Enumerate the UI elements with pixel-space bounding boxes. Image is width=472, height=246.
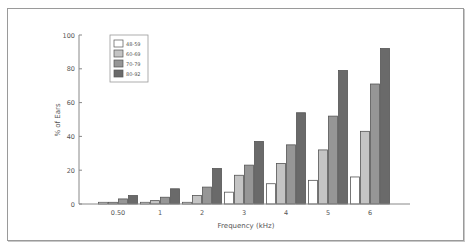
bar <box>245 165 254 204</box>
y-tick-label: 80 <box>67 65 75 73</box>
bar <box>213 169 222 204</box>
legend: 48-5960-6970-7980-92 <box>110 35 148 82</box>
x-tick-label: 2 <box>200 209 204 217</box>
legend-label: 80-92 <box>126 71 141 77</box>
bar <box>203 187 212 204</box>
y-axis-label: % of Ears <box>54 103 62 136</box>
x-tick-label: 0.50 <box>111 209 125 217</box>
x-tick-label: 1 <box>158 209 162 217</box>
y-tick-label: 20 <box>67 167 75 175</box>
x-tick-label: 3 <box>242 209 246 217</box>
bar <box>255 141 264 204</box>
bar <box>287 145 296 204</box>
bar-chart: 020406080100 0.50123456 48-5960-6970-798… <box>0 0 472 246</box>
y-axis: 020406080100 <box>63 32 82 209</box>
legend-swatch <box>114 60 123 67</box>
bar <box>381 49 390 204</box>
bar <box>329 116 338 204</box>
legend-swatch <box>114 50 123 57</box>
y-tick-label: 40 <box>67 133 75 141</box>
bar <box>193 196 202 204</box>
legend-label: 70-79 <box>126 61 141 67</box>
x-tick-label: 5 <box>326 209 330 217</box>
bar <box>277 163 286 204</box>
legend-swatch <box>114 70 123 77</box>
bar <box>297 113 306 204</box>
bar <box>225 192 234 204</box>
bar <box>129 196 138 204</box>
bar <box>339 70 348 204</box>
bar <box>161 197 170 204</box>
y-tick-label: 100 <box>63 32 75 40</box>
bar <box>361 131 370 204</box>
x-axis-label: Frequency (kHz) <box>218 222 275 230</box>
bar <box>171 189 180 204</box>
x-tick-label: 6 <box>368 209 372 217</box>
legend-label: 60-69 <box>126 51 141 57</box>
bar <box>267 184 276 204</box>
bar <box>319 150 328 204</box>
y-tick-label: 60 <box>67 99 75 107</box>
legend-swatch <box>114 40 123 47</box>
bar <box>151 201 160 204</box>
x-axis: 0.50123456 <box>79 204 410 217</box>
bar <box>371 84 380 204</box>
bar <box>119 199 128 204</box>
bar <box>309 180 318 204</box>
y-tick-label: 0 <box>71 201 75 209</box>
legend-label: 48-59 <box>126 41 141 47</box>
x-tick-label: 4 <box>284 209 288 217</box>
bar <box>235 175 244 204</box>
bar <box>351 177 360 204</box>
